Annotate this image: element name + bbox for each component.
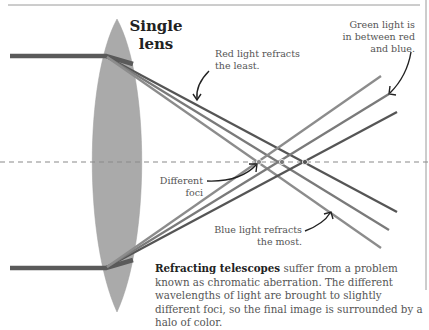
caption-bold: Refracting telescopes [155, 262, 280, 274]
green-label-line-1: Green light is [325, 19, 415, 31]
red-light-label: Red light refracts the least. [215, 48, 300, 72]
blue-label-line-1: Blue light refracts [205, 224, 302, 236]
arrow-green-callout [389, 52, 411, 95]
arrow-blue-callout [305, 212, 333, 231]
caption-paragraph: Refracting telescopes suffer from a prob… [155, 262, 425, 330]
arrow-red-callout [193, 71, 209, 100]
lens-title-line-1: Single [124, 17, 188, 35]
foci-label-line-1: Different [150, 175, 203, 187]
blue-ray-top [107, 57, 381, 248]
lens-title: Single lens [124, 17, 188, 53]
green-label-line-2: in between red [325, 31, 415, 43]
foci-label-line-2: foci [150, 187, 203, 199]
red-label-line-1: Red light refracts [215, 48, 300, 60]
blue-label-line-2: the most. [205, 236, 302, 248]
blue-light-label: Blue light refracts the most. [205, 224, 302, 248]
red-label-line-2: the least. [215, 60, 300, 72]
focus-red [302, 159, 307, 164]
lens-title-line-2: lens [124, 35, 188, 53]
focus-green [279, 159, 284, 164]
green-ray-top [107, 57, 389, 230]
different-foci-label: Different foci [150, 175, 203, 199]
green-light-label: Green light is in between red and blue. [325, 19, 415, 55]
green-label-line-3: and blue. [325, 43, 415, 55]
